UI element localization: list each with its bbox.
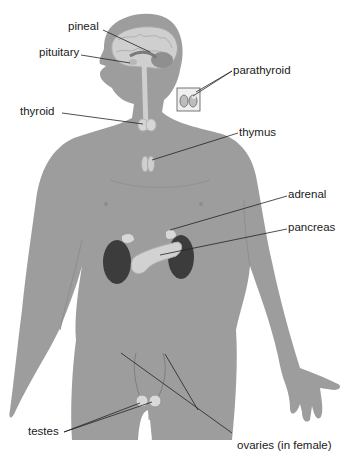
label-pancreas: pancreas (288, 222, 335, 234)
thyroid-leader-line (62, 113, 143, 124)
label-ovaries: ovaries (in female) (237, 440, 332, 452)
label-pituitary: pituitary (39, 47, 79, 59)
endocrine-diagram: pineal pituitary parathyroid thyroid thy… (0, 0, 352, 462)
label-pineal: pineal (68, 21, 99, 33)
thyroid-gland (138, 119, 156, 131)
parathyroid-leader-line-2 (193, 71, 232, 96)
thymus-gland (142, 156, 155, 172)
label-thyroid: thyroid (20, 106, 55, 118)
label-testes: testes (28, 426, 59, 438)
label-thymus: thymus (239, 127, 276, 139)
label-parathyroid: parathyroid (233, 65, 291, 77)
label-adrenal: adrenal (288, 189, 326, 201)
